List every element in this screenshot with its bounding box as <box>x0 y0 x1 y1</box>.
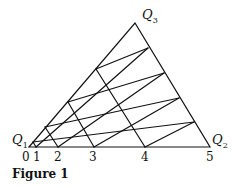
tick-label-4: 4 <box>141 151 149 163</box>
tick-label-5: 5 <box>206 151 214 163</box>
tick-label-0: 0 <box>22 151 30 163</box>
line-1-right <box>36 48 148 147</box>
vertex-label-q3: Q3 <box>142 8 158 25</box>
line-3-right <box>94 98 179 147</box>
line-1-left <box>33 142 36 147</box>
vertex-label-q1: Q1 <box>12 133 28 150</box>
cross-line-1 <box>33 122 194 142</box>
cross-line-4 <box>96 48 148 69</box>
line-2-right <box>58 73 164 147</box>
tick-label-2: 2 <box>54 151 62 163</box>
tick-label-3: 3 <box>89 151 97 163</box>
tick-label-1: 1 <box>33 151 41 163</box>
cross-line-2 <box>45 98 179 127</box>
line-4-right <box>145 122 194 147</box>
vertex-label-q2: Q2 <box>212 133 228 150</box>
cross-line-3 <box>68 73 164 102</box>
figure-caption: Figure 1 <box>12 168 69 180</box>
